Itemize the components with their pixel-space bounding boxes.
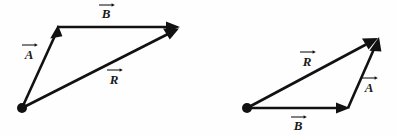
right-vector-a-label: A (364, 80, 374, 95)
right-origin-dot (242, 103, 252, 113)
right-vector-b: B (247, 103, 350, 134)
left-vector-r: R (22, 29, 179, 109)
left-vector-b: B (57, 3, 180, 32)
left-origin-dot (17, 103, 27, 113)
right-vector-b-label-overbar-tip (304, 115, 307, 118)
right-vector-r-label: R (302, 54, 312, 69)
left-vector-a: A (22, 25, 62, 108)
right-vector-a: A (348, 37, 381, 108)
left-vector-b-label-overbar-tip (112, 3, 115, 6)
right-vector-a-label-overbar-tip (375, 76, 378, 79)
right-vector-b-label: B (293, 118, 303, 133)
left-vector-r-shaft (22, 34, 168, 108)
vector-figure-canvas: A B R (0, 0, 397, 135)
right-vector-r-label-overbar-tip (313, 50, 316, 53)
left-diagram: A B R (17, 3, 180, 113)
right-vector-b-arrowhead (336, 103, 350, 114)
vector-diagram-svg: A B R (0, 0, 397, 135)
left-vector-r-label: R (109, 72, 119, 87)
left-vector-r-label-overbar-tip (120, 68, 123, 71)
right-vector-r: R (247, 38, 378, 108)
left-vector-a-label-overbar-tip (35, 43, 38, 46)
left-vector-b-label: B (101, 6, 111, 21)
left-vector-a-label: A (24, 47, 34, 62)
right-diagram: B A R (242, 37, 381, 133)
